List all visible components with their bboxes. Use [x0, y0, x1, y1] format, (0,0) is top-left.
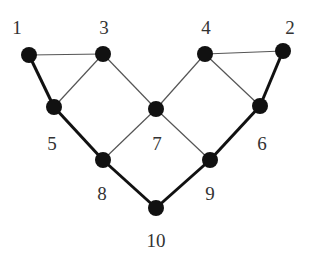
node-label-6: 6: [257, 133, 267, 154]
edge-9-6: [210, 106, 260, 160]
node-7: [148, 101, 164, 117]
node-2: [275, 43, 291, 59]
node-label-9: 9: [205, 183, 215, 204]
edge-1-5: [29, 55, 54, 107]
node-label-4: 4: [201, 17, 211, 38]
edges-layer: [29, 51, 283, 208]
node-label-5: 5: [47, 133, 57, 154]
node-label-2: 2: [285, 17, 295, 38]
edge-3-5: [54, 54, 103, 107]
edge-4-2: [205, 51, 283, 54]
node-label-10: 10: [147, 230, 166, 251]
node-5: [46, 99, 62, 115]
node-3: [95, 46, 111, 62]
node-label-1: 1: [12, 17, 22, 38]
node-9: [202, 152, 218, 168]
node-4: [197, 46, 213, 62]
edge-4-7: [156, 54, 205, 109]
edge-1-3: [29, 54, 103, 55]
edge-8-10: [103, 160, 156, 208]
nodes-layer: [21, 43, 291, 216]
node-label-8: 8: [97, 183, 107, 204]
node-label-3: 3: [99, 17, 109, 38]
graph-diagram: 12345678910: [0, 0, 311, 256]
node-6: [252, 98, 268, 114]
node-1: [21, 47, 37, 63]
edge-7-8: [103, 109, 156, 160]
edge-5-8: [54, 107, 103, 160]
edge-7-9: [156, 109, 210, 160]
edge-10-9: [156, 160, 210, 208]
edge-4-6: [205, 54, 260, 106]
edge-6-2: [260, 51, 283, 106]
node-8: [95, 152, 111, 168]
node-label-7: 7: [152, 133, 162, 154]
node-10: [148, 200, 164, 216]
edge-3-7: [103, 54, 156, 109]
